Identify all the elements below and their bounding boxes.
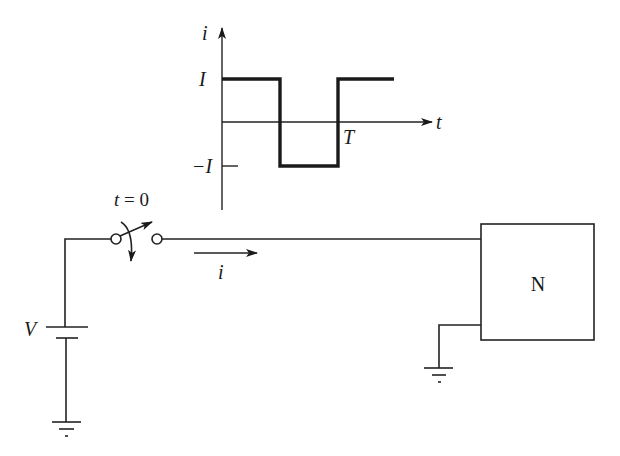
circuit: V t = 0 i N — [24, 189, 594, 436]
network-label: N — [531, 273, 545, 295]
level-high-label: I — [198, 68, 207, 90]
right-ground-wire — [439, 325, 481, 368]
x-axis-label: t — [436, 111, 442, 133]
left-wire-top — [65, 239, 111, 327]
ground-icon-left — [52, 422, 81, 436]
period-label: T — [343, 126, 356, 148]
source-label: V — [24, 318, 39, 340]
level-low-label: −I — [192, 155, 213, 177]
switch-icon[interactable] — [111, 222, 162, 261]
waveform-graph: i t I −I T — [192, 22, 442, 210]
switch-label: t = 0 — [114, 189, 149, 210]
circuit-diagram: i t I −I T V t = 0 — [0, 0, 620, 456]
y-axis-label: i — [202, 22, 208, 44]
current-label: i — [218, 261, 224, 283]
battery-icon — [46, 327, 88, 338]
ground-icon-right — [424, 368, 453, 382]
